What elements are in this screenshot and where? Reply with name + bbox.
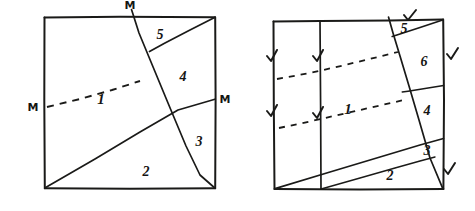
right-cut-lower-lower (321, 157, 435, 189)
right-cut-lines (275, 17, 444, 189)
right-frame-left (274, 22, 275, 190)
right-dashed-line-upper (277, 52, 398, 79)
tick-mid-upper-icon (313, 50, 323, 61)
right-label-piece-6: 6 (421, 54, 428, 69)
right-label-piece-3: 3 (423, 143, 431, 158)
tick-right-piece3-icon (444, 163, 455, 174)
right-frame-right (443, 20, 444, 190)
right-cut-lower-upper (275, 139, 444, 189)
right-label-piece-1: 1 (344, 101, 352, 117)
right-cut-vertical (320, 21, 321, 189)
tick-left-upper-icon (267, 50, 277, 61)
tick-right-piece6-icon (447, 48, 458, 59)
right-label-piece-2: 2 (386, 168, 394, 183)
right-label-piece-5: 5 (401, 21, 408, 36)
right-label-piece-4: 4 (423, 103, 431, 118)
right-frame-top (274, 20, 444, 22)
tick-top-piece5-icon (404, 10, 416, 20)
right-dashed-lines (277, 52, 404, 128)
right-figure: 1 2 3 4 5 6 (0, 0, 475, 211)
figure-canvas: 1 2 3 4 5 M M M (0, 0, 475, 211)
right-dashed-line-lower (279, 100, 404, 128)
tick-left-lower-icon (267, 105, 277, 116)
